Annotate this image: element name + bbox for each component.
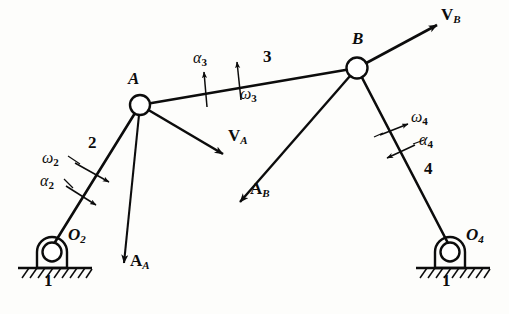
- alpha3-sense-arrow: [204, 72, 207, 107]
- alpha4-sense-arrow: [387, 145, 415, 158]
- link-4-bar: [357, 68, 450, 247]
- ground-hatching-left: [22, 268, 92, 278]
- joint-label-B: B: [352, 30, 363, 47]
- kinematic-diagram-figure: A B O2 O4 1 1 2 3 4 VA VB AA AB ω2 α2 α3…: [0, 0, 509, 314]
- vector-label-VA-subscript: A: [240, 134, 247, 146]
- symbol-label-alpha4: α4: [419, 132, 433, 150]
- vector-label-AA-subscript: A: [142, 259, 149, 271]
- omega4-sense-arrow: [380, 124, 408, 135]
- symbol-label-alpha3-subscript: 3: [201, 56, 207, 68]
- diagram-canvas: [0, 0, 509, 314]
- omega2-sense-arrow: [75, 163, 109, 182]
- vector-label-VB-subscript: B: [453, 13, 460, 25]
- symbol-label-alpha3: α3: [193, 50, 207, 68]
- symbol-label-omega3-glyph: ω: [240, 85, 251, 102]
- joint-label-O4-subscript: 4: [478, 233, 484, 245]
- symbol-label-omega4: ω4: [411, 109, 428, 127]
- symbol-label-omega3: ω3: [240, 86, 257, 104]
- vector-label-VB-symbol: V: [441, 5, 453, 24]
- vector-label-VB: VB: [441, 6, 461, 25]
- pin-joint-B: [347, 58, 368, 79]
- symbol-label-omega2: ω2: [42, 150, 59, 168]
- vector-label-AB-symbol: A: [250, 179, 262, 198]
- link-label-3: 3: [263, 48, 272, 65]
- vector-label-AB: AB: [250, 180, 270, 199]
- vector-label-AA-symbol: A: [130, 251, 142, 270]
- vector-label-AA: AA: [130, 252, 150, 271]
- omega2-leader-line: [68, 156, 80, 164]
- velocity-vector-B: [357, 25, 437, 68]
- symbol-label-omega2-subscript: 2: [53, 156, 59, 168]
- link-label-4: 4: [424, 160, 433, 177]
- link-label-1-right: 1: [442, 272, 451, 289]
- joint-label-A: A: [128, 70, 139, 87]
- ground-hatching-right: [420, 268, 490, 278]
- symbol-label-alpha2-subscript: 2: [48, 179, 54, 191]
- velocity-vector-A: [140, 105, 223, 154]
- symbol-label-omega4-glyph: ω: [411, 108, 422, 125]
- joint-label-O4: O4: [466, 226, 484, 245]
- joint-label-O4-letter: O: [466, 225, 478, 244]
- symbol-label-alpha2: α2: [40, 173, 54, 191]
- alpha2-leader-line: [64, 179, 73, 188]
- symbol-label-omega4-subscript: 4: [422, 115, 428, 127]
- link-label-2: 2: [88, 134, 97, 151]
- vector-label-AB-subscript: B: [262, 187, 269, 199]
- link-label-1-left: 1: [44, 272, 53, 289]
- symbol-label-alpha4-subscript: 4: [427, 138, 433, 150]
- symbol-label-omega3-subscript: 3: [251, 92, 257, 104]
- joint-label-O2-letter: O: [68, 225, 80, 244]
- vector-label-VA-symbol: V: [228, 126, 240, 145]
- pin-joint-A: [130, 95, 150, 115]
- joint-label-O2-subscript: 2: [80, 233, 86, 245]
- vector-label-VA: VA: [228, 127, 248, 146]
- symbol-label-omega2-glyph: ω: [42, 149, 53, 166]
- joint-label-O2: O2: [68, 226, 86, 245]
